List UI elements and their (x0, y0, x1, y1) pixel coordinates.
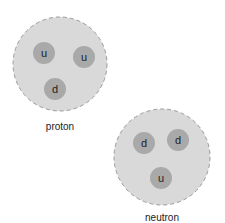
neutron-quark-1: d (133, 132, 155, 154)
neutron-quark-2: d (167, 129, 189, 151)
proton-quark-3: d (44, 78, 66, 100)
quark-label: u (41, 47, 47, 59)
proton-group: u u d (13, 17, 107, 111)
proton-quark-1: u (33, 42, 55, 64)
quark-label: d (52, 83, 58, 95)
proton-caption: proton (46, 121, 74, 132)
neutron-group: d d u (114, 109, 210, 205)
neutron-caption: neutron (145, 212, 179, 223)
neutron-quark-3: u (150, 167, 172, 189)
quark-label: d (141, 137, 147, 149)
neutron-circle (114, 109, 210, 205)
quark-label: u (158, 172, 164, 184)
quark-label: d (175, 134, 181, 146)
quark-label: u (81, 51, 87, 63)
proton-quark-2: u (73, 46, 95, 68)
diagram-canvas: u u d d d u (0, 0, 225, 223)
